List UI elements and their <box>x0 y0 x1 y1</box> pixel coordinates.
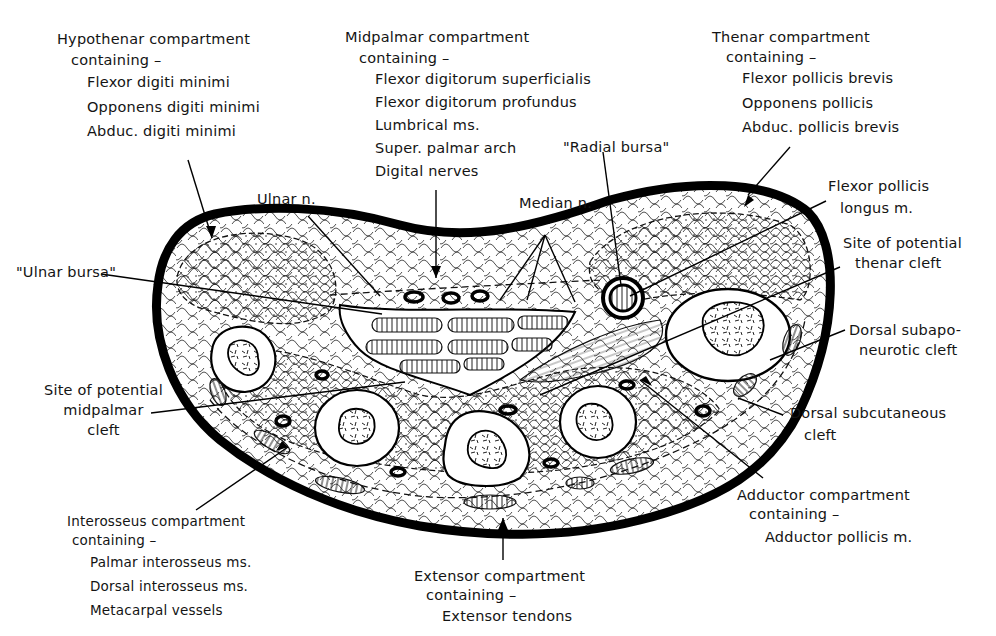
list-item: Lumbrical ms. <box>345 114 591 137</box>
metacarpal-2 <box>560 386 636 458</box>
radial-bursa <box>603 278 643 318</box>
label-flexor-pollicis-longus: Flexor pollicis longus m. <box>828 175 929 219</box>
sub-heading: containing – <box>345 49 591 68</box>
list-item: Abduc. digiti minimi <box>57 119 260 144</box>
sub-heading: containing – <box>57 51 260 70</box>
label-ulnar-nerve: Ulnar n. <box>257 188 316 211</box>
label-adductor-compartment: Adductor compartment containing – Adduct… <box>737 485 912 550</box>
list-item: Flexor digitorum superficialis <box>345 68 591 91</box>
list-item: Opponens digiti minimi <box>57 95 260 120</box>
sub-heading: containing – <box>712 49 899 66</box>
label-extensor-compartment: Extensor compartment containing – Extens… <box>414 566 585 627</box>
label-ulnar-bursa: "Ulnar bursa" <box>16 261 116 284</box>
heading: Hypothenar compartment <box>57 28 260 51</box>
list-item: Flexor digiti minimi <box>57 70 260 95</box>
label-dorsal-subaponeurotic-cleft: Dorsal subapo- neurotic cleft <box>849 320 961 360</box>
list-item: Adductor pollicis m. <box>737 524 912 550</box>
label-midpalmar-cleft: Site of potential midpalmar cleft <box>44 380 163 440</box>
metacarpal-4 <box>315 390 399 466</box>
label-interosseus-compartment: Interosseus compartment containing – Pal… <box>67 511 251 622</box>
list-item: Flexor pollicis brevis <box>712 66 899 91</box>
list-item: Metacarpal vessels <box>67 598 251 622</box>
list-item: Super. palmar arch <box>345 137 591 160</box>
metacarpal-1 <box>666 289 790 381</box>
label-thenar-cleft: Site of potential thenar cleft <box>843 233 962 273</box>
list-item: Dorsal interosseus ms. <box>67 574 251 598</box>
list-item: Abduc. pollicis brevis <box>712 115 899 140</box>
list-item: Flexor digitorum profundus <box>345 91 591 114</box>
heading: Midpalmar compartment <box>345 26 591 49</box>
list-item: Digital nerves <box>345 160 591 183</box>
heading: Thenar compartment <box>712 26 899 49</box>
list-item: Extensor tendons <box>414 605 585 627</box>
list-item: Palmar interosseus ms. <box>67 550 251 574</box>
label-dorsal-subcutaneous-cleft: Dorsal subcutaneous cleft <box>790 402 946 446</box>
label-radial-bursa: "Radial bursa" <box>563 136 669 159</box>
label-thenar-compartment: Thenar compartment containing – Flexor p… <box>712 26 899 140</box>
label-midpalmar-compartment: Midpalmar compartment containing – Flexo… <box>345 26 591 183</box>
label-hypothenar-compartment: Hypothenar compartment containing – Flex… <box>57 28 260 144</box>
list-item: Opponens pollicis <box>712 91 899 116</box>
label-median-nerve: Median n. <box>519 192 592 215</box>
